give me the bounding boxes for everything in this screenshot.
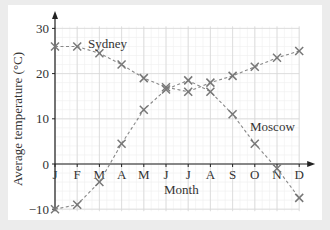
svg-text:J: J — [163, 167, 168, 182]
svg-text:A: A — [117, 167, 127, 182]
svg-text:−10: −10 — [29, 202, 49, 217]
svg-text:D: D — [295, 167, 304, 182]
svg-text:0: 0 — [43, 157, 50, 172]
svg-text:F: F — [74, 167, 81, 182]
svg-text:O: O — [250, 167, 259, 182]
y-axis-title: Average temperature (°C) — [10, 52, 25, 186]
svg-text:A: A — [206, 167, 216, 182]
line-chart: −100102030JFMAMJJASOND Sydney Moscow Mon… — [0, 0, 330, 230]
x-axis-title: Month — [164, 182, 199, 197]
svg-text:10: 10 — [36, 111, 49, 126]
svg-text:S: S — [229, 167, 236, 182]
svg-text:J: J — [52, 167, 57, 182]
sydney-label: Sydney — [88, 36, 128, 51]
moscow-label: Moscow — [250, 119, 295, 134]
svg-text:20: 20 — [36, 66, 49, 81]
svg-text:J: J — [186, 167, 191, 182]
svg-text:30: 30 — [36, 21, 49, 36]
svg-text:M: M — [138, 167, 150, 182]
